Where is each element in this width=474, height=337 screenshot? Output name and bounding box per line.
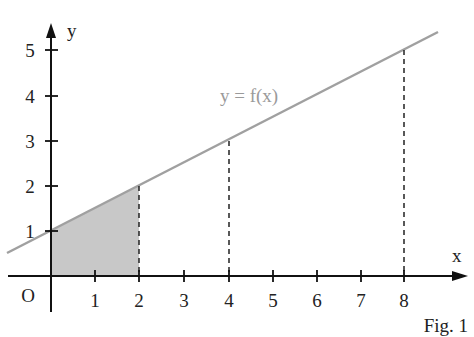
y-tick-label: 5 <box>25 40 35 61</box>
function-label: y = f(x) <box>220 85 278 107</box>
figure-canvas: 1 2 3 4 5 6 7 8 1 2 3 4 5 y x O y = f(x)… <box>0 0 474 337</box>
x-axis-arrow-icon <box>452 271 468 281</box>
y-tick-labels: 1 2 3 4 5 <box>25 40 35 242</box>
x-tick-label: 7 <box>356 290 366 311</box>
y-tick-label: 2 <box>25 176 35 197</box>
x-tick-label: 3 <box>179 290 189 311</box>
x-tick-label: 2 <box>134 290 144 311</box>
origin-label: O <box>21 285 35 306</box>
shaded-area <box>51 186 139 276</box>
y-axis-arrow-icon <box>46 23 56 38</box>
y-tick-label: 4 <box>25 86 35 107</box>
y-axis-label: y <box>67 20 77 41</box>
x-tick-labels: 1 2 3 4 5 6 7 8 <box>90 290 409 311</box>
x-tick-label: 5 <box>268 290 278 311</box>
x-axis-label: x <box>452 245 462 266</box>
figure-caption: Fig. 1 <box>424 315 468 336</box>
y-tick-label: 1 <box>25 221 35 242</box>
y-tick-label: 3 <box>25 131 35 152</box>
x-tick-label: 1 <box>90 290 100 311</box>
x-tick-label: 8 <box>399 290 409 311</box>
x-tick-label: 4 <box>224 290 234 311</box>
x-tick-label: 6 <box>312 290 322 311</box>
function-line <box>7 32 438 253</box>
